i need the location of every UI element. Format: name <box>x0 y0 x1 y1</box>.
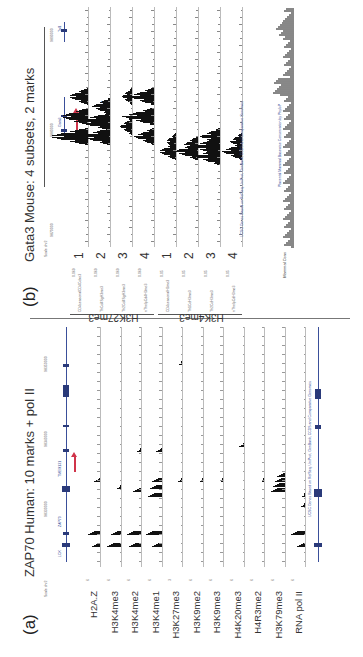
signal-noise <box>243 390 244 391</box>
signal-noise <box>304 372 305 373</box>
signal-noise <box>243 345 244 346</box>
signal-peak <box>291 534 305 535</box>
signal-noise <box>282 561 285 562</box>
signal-noise <box>304 444 305 445</box>
signal-noise <box>304 336 305 337</box>
signal-noise <box>243 435 244 436</box>
signal-noise <box>282 498 285 499</box>
exon <box>314 489 322 497</box>
signal-peak <box>304 495 305 496</box>
signal-noise <box>282 471 285 472</box>
signal-noise <box>262 444 264 445</box>
signal-noise <box>282 408 285 409</box>
signal-noise <box>262 327 264 328</box>
signal-noise <box>304 327 305 328</box>
group-mark-label: H3K4me3 <box>162 312 242 323</box>
signal-noise <box>262 498 264 499</box>
signal-noise <box>240 80 242 81</box>
signal-noise <box>262 462 264 463</box>
signal-noise <box>282 372 285 373</box>
panel-a-bottom-annotation: UCSC Genes Based on RefSeq, UniProt, Gen… <box>308 381 312 517</box>
signal-noise <box>262 525 264 526</box>
signal-noise <box>243 561 244 562</box>
signal-peak <box>279 475 285 476</box>
signal-peak <box>279 483 285 484</box>
track-baseline <box>305 327 306 567</box>
signal-noise <box>304 471 305 472</box>
signal-noise <box>262 507 264 508</box>
exon <box>314 543 322 547</box>
signal-peak <box>301 544 305 545</box>
signal-noise <box>304 543 305 544</box>
signal-noise <box>282 462 285 463</box>
signal-noise <box>282 417 285 418</box>
signal-noise <box>241 241 242 242</box>
signal-noise <box>243 498 244 499</box>
signal-noise <box>240 17 242 18</box>
signal-noise <box>243 507 244 508</box>
signal-noise <box>241 73 242 74</box>
signal-noise <box>304 345 305 346</box>
signal-noise <box>243 363 244 364</box>
signal-noise <box>262 399 264 400</box>
signal-noise <box>304 462 305 463</box>
signal-noise <box>304 480 305 481</box>
signal-track <box>289 327 305 657</box>
signal-noise <box>262 471 264 472</box>
signal-peak <box>283 473 285 474</box>
signal-noise <box>243 552 244 553</box>
signal-noise <box>282 345 285 346</box>
exon <box>315 425 321 429</box>
signal-noise <box>304 516 305 517</box>
signal-peak <box>303 505 305 506</box>
signal-noise <box>282 534 285 535</box>
signal-noise <box>243 444 244 445</box>
signal-noise <box>282 525 285 526</box>
signal-noise <box>239 45 242 46</box>
signal-noise <box>304 453 305 454</box>
signal-peak <box>304 493 305 494</box>
track-baseline <box>244 327 245 567</box>
signal-noise <box>282 363 285 364</box>
signal-peak <box>304 494 305 495</box>
signal-noise <box>282 354 285 355</box>
signal-peak <box>304 504 305 505</box>
signal-noise <box>262 408 264 409</box>
signal-peak <box>297 531 305 532</box>
track-baseline <box>264 327 265 567</box>
panel-a-coord: 98330000 <box>44 501 48 517</box>
figure-canvas: (a) ZAP70 Human: 10 marks + pol II Scale… <box>0 0 363 657</box>
track-baseline <box>285 327 286 567</box>
signal-noise <box>243 417 244 418</box>
signal-noise <box>282 336 285 337</box>
signal-noise <box>282 480 285 481</box>
panel-a-label: (a) <box>20 614 40 635</box>
signal-noise <box>282 552 285 553</box>
signal-noise <box>282 507 285 508</box>
panel-b-title: Gata3 Mouse: 4 subsets, 2 marks <box>22 68 37 262</box>
signal-noise <box>282 543 285 544</box>
signal-noise <box>304 525 305 526</box>
signal-noise <box>304 408 305 409</box>
signal-noise <box>282 381 285 382</box>
panel-a-title: ZAP70 Human: 10 marks + pol II <box>22 388 37 577</box>
exon <box>315 389 321 399</box>
signal-noise <box>262 345 264 346</box>
signal-track <box>204 0 242 657</box>
signal-peak <box>222 151 242 152</box>
signal-noise <box>282 426 285 427</box>
signal-noise <box>304 399 305 400</box>
signal-peak <box>302 496 305 497</box>
signal-noise <box>262 516 264 517</box>
signal-noise <box>262 363 264 364</box>
signal-peak <box>281 474 285 475</box>
signal-noise <box>282 435 285 436</box>
signal-noise <box>262 336 264 337</box>
signal-track <box>248 327 264 657</box>
signal-noise <box>304 552 305 553</box>
signal-noise <box>282 516 285 517</box>
signal-noise <box>243 525 244 526</box>
signal-noise <box>282 327 285 328</box>
signal-noise <box>262 435 264 436</box>
signal-noise <box>243 354 244 355</box>
